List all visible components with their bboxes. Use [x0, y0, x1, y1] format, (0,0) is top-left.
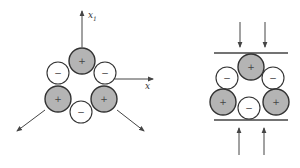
negative-ion: −: [262, 67, 284, 89]
coordinate-axes: x1x: [82, 10, 153, 91]
positive-ion: +: [210, 89, 236, 115]
ion-ring: +−−+−+: [210, 54, 289, 119]
positive-ion: +: [238, 54, 264, 80]
arrow-down-left-icon: [17, 110, 45, 131]
ion-ring: +−−+−+: [45, 48, 117, 123]
arrow-down-right-icon: [117, 110, 144, 131]
positive-sign-label: +: [219, 97, 227, 107]
negative-sign-label: −: [54, 68, 62, 78]
right-diagram-compressed: +−−+−+: [210, 22, 289, 155]
x-axis-label: x: [145, 81, 150, 91]
positive-ion: +: [91, 86, 117, 112]
positive-sign-label: +: [54, 94, 62, 104]
negative-ion: −: [70, 101, 92, 123]
positive-ion: +: [69, 48, 95, 74]
negative-ion: −: [94, 62, 116, 84]
x1-axis-label: x1: [88, 10, 97, 22]
negative-sign-label: −: [269, 73, 277, 83]
negative-sign-label: −: [245, 103, 253, 113]
negative-ion: −: [47, 62, 69, 84]
negative-sign-label: −: [101, 68, 109, 78]
compression-arrows: [239, 22, 265, 155]
positive-ion: +: [263, 89, 289, 115]
left-diagram-strained: x1x +−−+−+: [17, 10, 153, 131]
negative-sign-label: −: [223, 73, 231, 83]
negative-ion: −: [238, 97, 260, 119]
positive-ion: +: [45, 86, 71, 112]
piezoelectric-ion-diagram: x1x +−−+−+ +−−+−+: [0, 0, 300, 168]
positive-sign-label: +: [272, 97, 280, 107]
positive-sign-label: +: [78, 56, 86, 66]
negative-sign-label: −: [77, 107, 85, 117]
negative-ion: −: [216, 67, 238, 89]
positive-sign-label: +: [247, 62, 255, 72]
positive-sign-label: +: [100, 94, 108, 104]
